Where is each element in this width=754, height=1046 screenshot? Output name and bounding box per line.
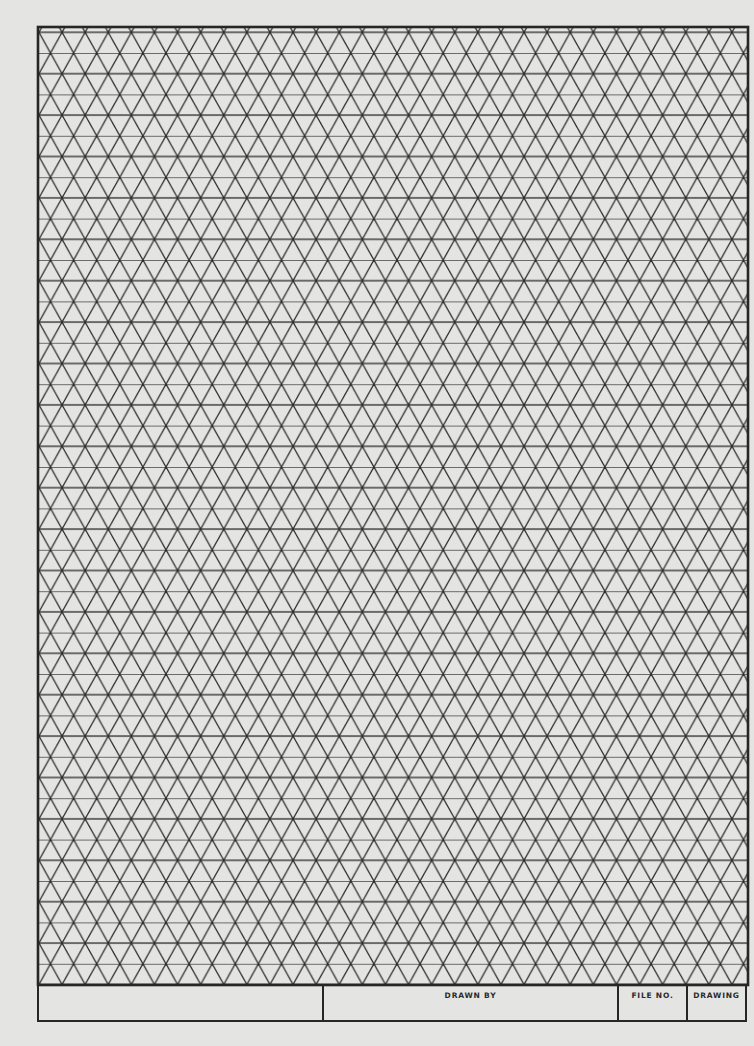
drawn-by-field: DRAWN BY — [324, 985, 619, 1020]
grid-area — [38, 27, 748, 985]
drawn-by-label: DRAWN BY — [324, 991, 617, 1000]
isometric-grid — [0, 0, 754, 1046]
title-block: DRAWN BY FILE NO. DRAWING — [37, 985, 747, 1022]
file-no-field: FILE NO. — [619, 985, 688, 1020]
drawing-label: DRAWING — [688, 991, 745, 1000]
graph-paper-sheet: DRAWN BY FILE NO. DRAWING — [0, 0, 754, 1046]
drawing-field: DRAWING — [688, 985, 745, 1020]
file-no-label: FILE NO. — [619, 991, 686, 1000]
title-block-blank-cell — [39, 985, 324, 1020]
